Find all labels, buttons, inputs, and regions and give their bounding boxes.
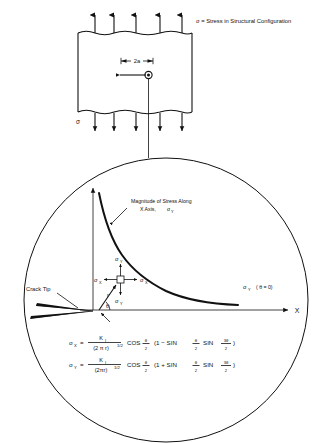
- eq2-sin1-den: 2: [195, 368, 198, 373]
- eq1-cos-arg-num: θ: [145, 338, 148, 343]
- eq1-sin2-den: 2: [225, 346, 228, 351]
- stress-element-square: [117, 276, 124, 283]
- x-axis-label: X: [295, 307, 300, 314]
- eq1-sin1-den: 2: [195, 346, 198, 351]
- eq1-sin1-num: θ: [195, 338, 198, 343]
- eq1-lhs-symbol: σ: [69, 339, 73, 346]
- eq2-denominator: (2πr): [95, 367, 108, 373]
- eq1-lhs-sub: X: [74, 343, 77, 348]
- eq2-sin2-num: 3θ: [224, 360, 229, 365]
- eq1-paren-open: (1 − SIN: [154, 339, 177, 346]
- eq1-cos-term: COS: [127, 339, 140, 346]
- eq2-lhs-symbol: σ: [69, 361, 73, 368]
- eq1-paren-close: ): [233, 339, 235, 346]
- eq2-cos-arg-den: 2: [145, 368, 148, 373]
- stress-element: σ Y σ Y σ X σ X: [94, 256, 148, 306]
- eq2-paren-close: ): [233, 361, 235, 368]
- eq1-denominator-exponent: 1/2: [117, 343, 123, 348]
- sigma-y-tail-sub: Y: [248, 287, 251, 292]
- stress-diagram: σ 2a σ = Stress in Structural Configu: [0, 0, 329, 443]
- bottom-tension-arrows: [95, 113, 182, 131]
- sigma-y-bottom-symbol: σ: [115, 298, 119, 304]
- eq2-denominator-exponent: 1/2: [114, 365, 120, 370]
- sigma-x-left-sub: X: [99, 280, 102, 285]
- eq1-numerator: K: [99, 335, 103, 341]
- eq2-equals: =: [80, 361, 84, 368]
- crack-tip-label: Crack Tip: [26, 286, 50, 292]
- eq1-sin2-word: SIN: [203, 339, 213, 346]
- eq1-equals: =: [80, 339, 84, 346]
- eq2-sin2-den: 2: [225, 368, 228, 373]
- top-tension-arrows: [95, 15, 182, 33]
- plate-sigma-label: σ: [76, 118, 80, 125]
- crack-length-label: 2a: [134, 58, 141, 64]
- crack-length-dimension: 2a: [121, 57, 153, 65]
- eq2-paren-open: (1 + SIN: [154, 361, 177, 368]
- crack-tip-detail-view: X Magnitude of Stress Along X Axis, σ Y …: [24, 158, 308, 442]
- sigma-y-tail-symbol: σ: [243, 284, 247, 290]
- sigma-y-theta-zero-annotation: σ Y ( θ = 0): [243, 284, 273, 292]
- eq1-sin2-num: 3θ: [224, 338, 229, 343]
- eq2-cos-arg-num: θ: [145, 360, 148, 365]
- eq1-denominator: (2 π r): [93, 345, 109, 351]
- sigma-x-right-sub: X: [145, 280, 148, 285]
- eq2-cos-term: COS: [127, 361, 140, 368]
- curve-label-leader: [113, 208, 127, 222]
- eq2-sin1-num: θ: [195, 360, 198, 365]
- theta-label: θ: [106, 303, 109, 309]
- sigma-x-left-symbol: σ: [94, 277, 98, 283]
- radius-label: r: [107, 292, 109, 298]
- structural-configuration-plate: σ 2a: [76, 15, 192, 158]
- sigma-y-top-sub: Y: [120, 259, 123, 264]
- crack-tip-wedge: [30, 303, 93, 319]
- sigma-y-equation: σ Y = K I (2πr) 1/2 COS θ 2 (1 + SIN θ 2…: [69, 357, 235, 373]
- sigma-x-equation: σ X = K I (2 π r) 1/2 COS θ 2 (1 − SIN θ…: [69, 335, 235, 351]
- stress-definition-note: σ = Stress in Structural Configuration: [196, 18, 291, 24]
- curve-label-line1: Magnitude of Stress Along: [131, 198, 192, 204]
- eq2-numerator: K: [99, 357, 103, 363]
- eq2-sin2-word: SIN: [203, 361, 213, 368]
- sigma-x-right-symbol: σ: [140, 277, 144, 283]
- sigma-y-top-symbol: σ: [115, 256, 119, 262]
- figure-canvas: σ 2a σ = Stress in Structural Configu: [0, 0, 329, 443]
- crack-tip-pointer-arrow: [101, 313, 110, 322]
- curve-label-line2-sub: Y: [171, 209, 174, 214]
- eq2-lhs-sub: Y: [74, 365, 77, 370]
- curve-label-line2-prefix: X Axis,: [140, 206, 156, 212]
- curve-label-line2: X Axis, σ Y: [140, 206, 174, 214]
- eq1-cos-arg-den: 2: [145, 346, 148, 351]
- crack-tip-leader: [57, 293, 78, 308]
- crack-tip-callout: Crack Tip: [26, 286, 78, 308]
- sigma-y-bottom-sub: Y: [120, 301, 123, 306]
- theta-angle: θ: [106, 302, 110, 310]
- theta-zero-note: ( θ = 0): [256, 284, 273, 290]
- crack-feature: [120, 71, 152, 78]
